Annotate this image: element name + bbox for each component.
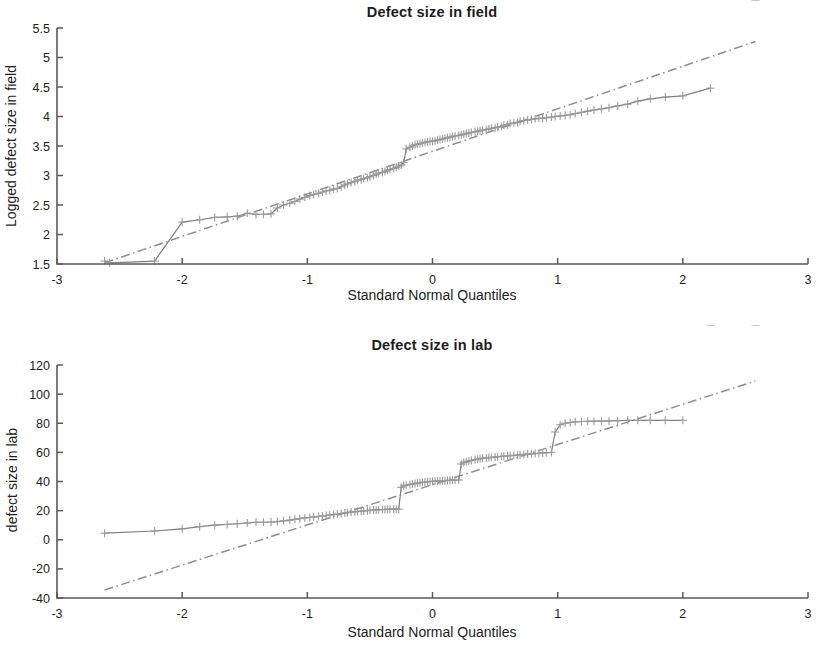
x-tick-label: 0 [429, 273, 436, 287]
y-tick-label: -40 [32, 592, 50, 606]
y-tick-label: 20 [36, 504, 50, 518]
y-tick-label: 4 [43, 110, 50, 124]
x-tick-label: 3 [805, 273, 812, 287]
x-tick-label: -1 [302, 607, 313, 621]
qq-plot-field-svg: Defect size in field Logged defect size … [0, 0, 816, 325]
x-tick-label: -1 [302, 273, 313, 287]
axis-frame-field [57, 28, 808, 264]
y-tick-label: 120 [29, 359, 50, 373]
x-tick-label: -2 [177, 607, 188, 621]
qq-plot-lab-svg: Defect size in lab defect size in lab St… [0, 325, 816, 650]
chart-title-field: Defect size in field [367, 4, 498, 20]
axis-ticks-lab: -3-2-10123-40-20020406080100120 [29, 359, 811, 622]
x-tick-label: 0 [429, 607, 436, 621]
x-tick-label: -2 [177, 273, 188, 287]
y-tick-label: 5.5 [33, 22, 50, 36]
chart-panel-lab: Defect size in lab defect size in lab St… [0, 325, 816, 650]
x-axis-label-field: Standard Normal Quantiles [348, 287, 517, 303]
x-tick-label: -3 [51, 607, 62, 621]
x-tick-label: -3 [51, 273, 62, 287]
y-tick-label: 100 [29, 388, 50, 402]
y-axis-label-field: Logged defect size in field [3, 65, 19, 227]
y-tick-label: 0 [43, 533, 50, 547]
sample-quantile-line [105, 88, 711, 263]
x-tick-label: 3 [805, 607, 812, 621]
y-tick-label: 5 [43, 51, 50, 65]
sample-quantile-line [105, 420, 683, 533]
y-tick-label: 60 [36, 446, 50, 460]
y-tick-label: 3.5 [33, 140, 50, 154]
chart-title-lab: Defect size in lab [371, 337, 492, 353]
x-tick-label: 1 [554, 273, 561, 287]
x-tick-label: 2 [679, 607, 686, 621]
y-tick-label: 2 [43, 228, 50, 242]
y-tick-label: -20 [32, 562, 50, 576]
y-tick-label: 1.5 [33, 258, 50, 272]
reference-line [105, 42, 756, 263]
y-axis-label-lab: defect size in lab [4, 428, 20, 532]
x-axis-label-lab: Standard Normal Quantiles [348, 624, 517, 640]
x-tick-label: 2 [679, 273, 686, 287]
reference-line [105, 381, 756, 590]
y-tick-label: 2.5 [33, 199, 50, 213]
data-markers-lab [101, 325, 760, 590]
y-tick-label: 3 [43, 169, 50, 183]
y-tick-label: 80 [36, 417, 50, 431]
figure-page: Defect size in field Logged defect size … [0, 0, 816, 650]
x-tick-label: 1 [554, 607, 561, 621]
data-markers-field [101, 0, 760, 267]
y-tick-label: 40 [36, 475, 50, 489]
chart-panel-field: Defect size in field Logged defect size … [0, 0, 816, 325]
y-tick-label: 4.5 [33, 81, 50, 95]
